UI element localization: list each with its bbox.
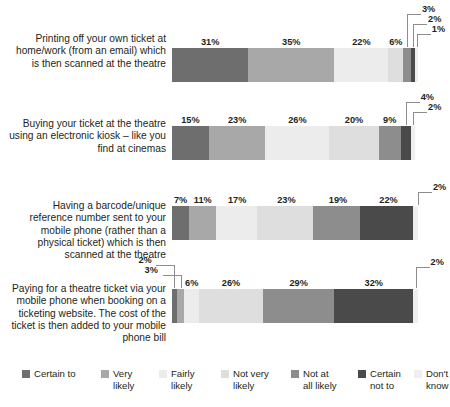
bar-segment [209, 126, 266, 160]
segment-value-label: 11% [194, 195, 212, 205]
segment-value-callout: 2% [428, 14, 441, 24]
stacked-bar [172, 126, 418, 160]
row-label: Having a barcode/unique reference number… [8, 200, 166, 261]
bar-segment [334, 48, 388, 82]
legend-label: Certain to [34, 368, 76, 380]
legend-label: Very likely [113, 368, 134, 391]
segment-value-callout: 2% [431, 257, 444, 267]
callout-leader-line [174, 265, 175, 288]
callout-leader-line [181, 275, 182, 288]
bar-segment [172, 126, 209, 160]
legend-item[interactable]: Don't know [414, 368, 448, 391]
legend-swatch-icon [159, 370, 167, 378]
segment-value-label: 6% [389, 37, 402, 47]
bar-segment [401, 126, 411, 160]
callout-leader-line [418, 192, 432, 193]
bar-segment [329, 126, 378, 160]
legend-swatch-icon [101, 370, 109, 378]
bar-segment [388, 48, 403, 82]
bar-segment [360, 206, 414, 240]
segment-value-label: 7% [174, 195, 187, 205]
callout-leader-line [416, 267, 417, 288]
bar-segment [184, 289, 199, 323]
legend-label: Fairly likely [171, 368, 194, 391]
bar-segment [415, 48, 417, 82]
callout-leader-line [163, 275, 181, 276]
bar-segment [216, 206, 257, 240]
bar-segment [199, 289, 263, 323]
segment-value-label: 15% [181, 115, 199, 125]
callout-leader-line [406, 102, 420, 103]
segment-value-label: 26% [222, 278, 240, 288]
legend-item[interactable]: Certain not to [358, 368, 401, 391]
bar-segment [265, 126, 329, 160]
bar-segment [411, 126, 416, 160]
callout-leader-line [407, 14, 408, 47]
row-label: Buying your ticket at the theatre using … [8, 118, 166, 155]
chart-legend: Certain toVery likelyFairly likelyNot ve… [0, 368, 450, 404]
callout-leader-line [413, 112, 427, 113]
segment-value-label: 26% [288, 115, 306, 125]
legend-label: Not at all likely [303, 368, 337, 391]
segment-value-callout: 1% [432, 24, 445, 34]
bar-segment [413, 289, 418, 323]
callout-leader-line [413, 24, 427, 25]
segment-value-label: 19% [329, 195, 347, 205]
bar-segment [172, 206, 189, 240]
segment-value-callout: 3% [422, 4, 435, 14]
segment-value-callout: 2% [428, 102, 441, 112]
row-label: Printing off your own ticket at home/wor… [8, 33, 166, 70]
segment-value-label: 29% [289, 278, 307, 288]
bar-segment [334, 289, 413, 323]
legend-item[interactable]: Certain to [22, 368, 76, 380]
callout-leader-line [156, 265, 174, 266]
legend-label: Don't know [426, 368, 448, 391]
segment-value-callout: 4% [421, 92, 434, 102]
segment-value-label: 22% [379, 195, 397, 205]
segment-value-callout: 2% [433, 182, 446, 192]
stacked-bar [172, 48, 418, 82]
callout-leader-line [417, 34, 418, 47]
legend-item[interactable]: Not at all likely [291, 368, 337, 391]
segment-value-label: 32% [365, 278, 383, 288]
segment-value-callout: 2% [138, 255, 151, 265]
segment-value-label: 6% [185, 278, 198, 288]
segment-value-label: 22% [352, 37, 370, 47]
legend-label: Certain not to [370, 368, 401, 391]
segment-value-label: 23% [277, 195, 295, 205]
stacked-bar [172, 206, 418, 240]
segment-value-label: 35% [282, 37, 300, 47]
callout-leader-line [413, 112, 414, 125]
legend-label: Not very likely [233, 368, 269, 391]
segment-value-label: 9% [383, 115, 396, 125]
stacked-bar-chart: Printing off your own ticket at home/wor… [0, 0, 450, 407]
bar-segment [172, 48, 248, 82]
callout-leader-line [407, 14, 421, 15]
callout-leader-line [418, 192, 419, 205]
bar-segment [177, 289, 184, 323]
row-label: Paying for a theatre ticket via your mob… [8, 283, 166, 344]
segment-value-label: 31% [201, 37, 219, 47]
legend-swatch-icon [358, 370, 366, 378]
legend-swatch-icon [414, 370, 422, 378]
bar-segment [263, 289, 334, 323]
callout-leader-line [406, 102, 407, 125]
bar-segment [313, 206, 359, 240]
legend-item[interactable]: Not very likely [221, 368, 269, 391]
legend-swatch-icon [291, 370, 299, 378]
bar-segment [189, 206, 216, 240]
callout-leader-line [417, 34, 431, 35]
legend-swatch-icon [221, 370, 229, 378]
bar-segment [257, 206, 313, 240]
stacked-bar [172, 289, 418, 323]
callout-leader-line [416, 267, 430, 268]
legend-item[interactable]: Fairly likely [159, 368, 194, 391]
segment-value-label: 23% [228, 115, 246, 125]
bar-segment [248, 48, 334, 82]
legend-item[interactable]: Very likely [101, 368, 134, 391]
bar-segment [403, 48, 410, 82]
segment-value-callout: 3% [145, 265, 158, 275]
segment-value-label: 20% [345, 115, 363, 125]
callout-leader-line [413, 24, 414, 47]
bar-segment [379, 126, 401, 160]
